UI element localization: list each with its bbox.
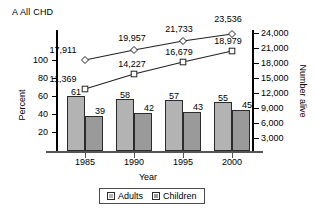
point-label-adults-2000: 23,536 [206, 14, 250, 24]
legend-swatch-icon [152, 192, 160, 200]
point-label-adults-1990: 19,957 [110, 33, 154, 43]
point-label-children-2000: 18,979 [206, 36, 250, 46]
point-label-adults-1985: 17,911 [41, 45, 85, 55]
x-tick-label-1985: 1985 [62, 157, 108, 167]
legend-label-adults: Adults [118, 191, 143, 201]
legend-entry-adults[interactable]: Adults [107, 191, 143, 201]
point-label-children-1995: 16,679 [157, 47, 201, 57]
x-tick-label-1990: 1990 [111, 157, 157, 167]
point-label-adults-1995: 21,733 [157, 24, 201, 34]
legend-swatch-icon [107, 192, 115, 200]
chart-legend: Adults Children [99, 188, 205, 204]
x-axis-title: Year [0, 172, 296, 182]
x-tick-label-2000: 2000 [209, 157, 255, 167]
x-tick-label-1995: 1995 [160, 157, 206, 167]
legend-entry-children[interactable]: Children [152, 191, 197, 201]
legend-label-children: Children [163, 191, 197, 201]
chart-figure: A All CHD 20 40 60 80 100 Percent 3,000 … [0, 0, 316, 214]
point-label-children-1990: 14,227 [110, 59, 154, 69]
point-label-children-1985: 11,369 [41, 74, 85, 84]
